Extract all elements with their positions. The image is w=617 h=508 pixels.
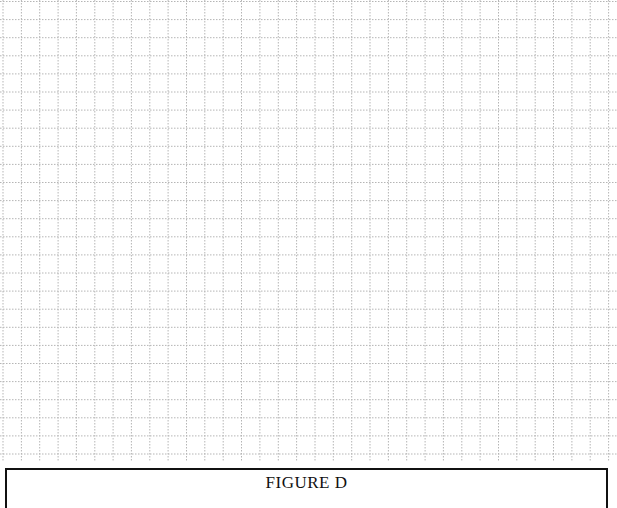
figure-caption-box: FIGURE D [5, 468, 608, 508]
graph-paper-grid [0, 0, 617, 462]
grid-lines [0, 0, 617, 462]
figure-caption: FIGURE D [7, 473, 606, 493]
